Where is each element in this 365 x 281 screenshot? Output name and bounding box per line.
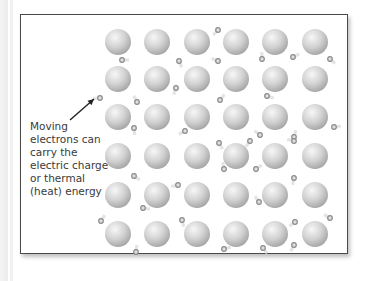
atom-icon (184, 66, 210, 92)
atom-icon (302, 221, 328, 247)
atom-icon (302, 29, 328, 55)
electron-icon (291, 176, 296, 185)
atom-icon (105, 221, 131, 247)
atom-icon (184, 29, 210, 55)
atom-icon (262, 66, 288, 92)
atom-icon (144, 221, 170, 247)
electron-icon (245, 139, 253, 148)
electron-icon (292, 130, 298, 139)
electron-icon (265, 94, 274, 100)
caption-line: or thermal (30, 172, 140, 185)
atom-icon (302, 182, 328, 208)
electron-icon (217, 141, 224, 150)
atom-icon (262, 182, 288, 208)
caption-line: carry the (30, 146, 140, 159)
caption-line: Moving (30, 120, 140, 133)
atom-icon (262, 29, 288, 55)
atom-icon (302, 143, 328, 169)
arrow-icon (70, 99, 94, 120)
electron-icon (253, 129, 262, 137)
electron-icon (172, 86, 178, 95)
electron-icon (120, 58, 129, 63)
electron-icon (260, 52, 265, 61)
atom-icon (105, 66, 131, 92)
electron-icon (332, 124, 341, 129)
electron-icon (178, 129, 187, 136)
atom-icon (105, 29, 131, 55)
caption-line: (heat) energy (30, 185, 140, 198)
electron-icon (134, 245, 139, 254)
electron-icon (177, 59, 184, 68)
atom-icon (184, 143, 210, 169)
electron-icon (218, 94, 226, 103)
electron-icon (180, 218, 186, 227)
atom-icon (223, 104, 249, 130)
atom-icon (184, 182, 210, 208)
electron-icon (287, 138, 296, 143)
atom-icon (223, 221, 249, 247)
electron-icon (291, 53, 300, 60)
atom-icon (144, 143, 170, 169)
electron-icon (222, 246, 231, 252)
electron-icon (141, 206, 150, 211)
electron-icon (289, 243, 296, 252)
electron-icon (323, 213, 332, 220)
atom-icon (223, 143, 249, 169)
electron-icon (212, 28, 220, 36)
atom-icon (144, 29, 170, 55)
atom-icon (223, 29, 249, 55)
electron-icon (254, 164, 263, 171)
electron-icon (254, 195, 262, 204)
electron-icon (261, 246, 269, 255)
caption-line: electric charge (30, 159, 140, 172)
atom-icon (144, 104, 170, 130)
electron-icon (211, 57, 220, 63)
atom-icon (184, 221, 210, 247)
atom-icon (262, 221, 288, 247)
atom-icon (262, 143, 288, 169)
caption-text: Moving electrons can carry the electric … (30, 120, 140, 198)
electron-icon (99, 214, 106, 223)
atom-icon (302, 66, 328, 92)
electron-icon (171, 183, 180, 188)
caption-line: electrons can (30, 133, 140, 146)
atom-icon (223, 182, 249, 208)
electron-icon (288, 220, 297, 228)
atom-icon (262, 104, 288, 130)
atom-icon (144, 66, 170, 92)
atom-icon (184, 104, 210, 130)
atom-icon (302, 104, 328, 130)
electron-icon (132, 95, 139, 104)
atom-icon (144, 182, 170, 208)
electron-icon (328, 57, 337, 65)
atom-icon (223, 66, 249, 92)
